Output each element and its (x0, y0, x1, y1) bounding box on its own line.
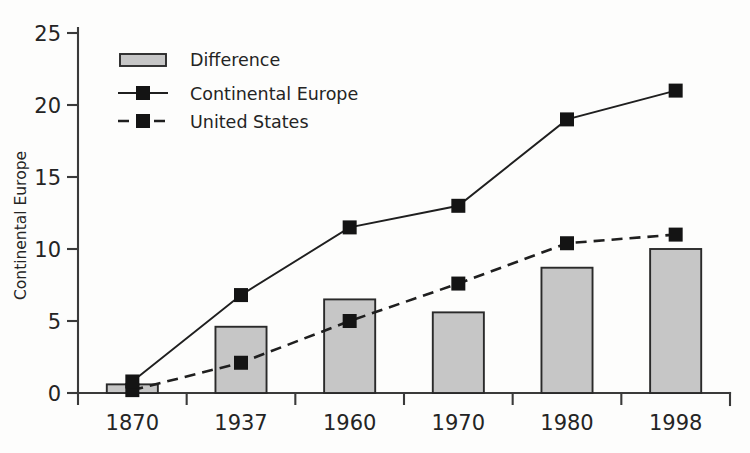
chart-canvas: Continental Europe 0510152025 1870193719… (0, 0, 750, 453)
y-tick-label: 0 (48, 382, 61, 406)
data-point-marker (560, 112, 574, 126)
x-tick-label: 1998 (649, 411, 702, 435)
data-point-marker (125, 374, 139, 388)
y-tick-label: 5 (48, 310, 61, 334)
bar (541, 268, 592, 393)
data-point-marker (234, 356, 248, 370)
y-tick-label: 15 (34, 166, 61, 190)
data-point-marker (343, 220, 357, 234)
legend-marker-continental-europe (136, 86, 150, 100)
legend-label-united-states: United States (190, 112, 309, 132)
x-tick-label: 1980 (540, 411, 593, 435)
legend-label-difference: Difference (190, 50, 280, 70)
data-point-marker (343, 314, 357, 328)
x-tick-label: 1960 (323, 411, 376, 435)
legend-marker-united-states (136, 114, 150, 128)
x-tick-label: 1970 (432, 411, 485, 435)
data-point-marker (451, 277, 465, 291)
y-axis-title: Continental Europe (12, 151, 30, 300)
y-tick-label: 25 (34, 22, 61, 46)
data-point-marker (669, 84, 683, 98)
y-tick-label: 10 (34, 238, 61, 262)
data-point-marker (451, 199, 465, 213)
chart-figure: Continental Europe 0510152025 1870193719… (0, 0, 750, 453)
data-point-marker (234, 288, 248, 302)
x-tick-label: 1937 (214, 411, 267, 435)
bar (433, 312, 484, 393)
data-point-marker (560, 236, 574, 250)
x-tick-label: 1870 (106, 411, 159, 435)
data-point-marker (669, 228, 683, 242)
legend-label-continental-europe: Continental Europe (190, 84, 358, 104)
bar (324, 299, 375, 393)
bar (650, 249, 701, 393)
y-tick-label: 20 (34, 94, 61, 118)
legend-swatch-difference (120, 54, 166, 66)
